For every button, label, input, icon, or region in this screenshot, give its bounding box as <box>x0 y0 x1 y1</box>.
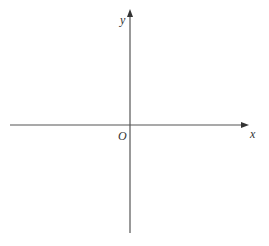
coordinate-plane: y O x <box>0 0 269 246</box>
y-axis-label: y <box>120 14 125 26</box>
y-axis-arrow-icon <box>127 9 133 17</box>
axes-drawing <box>0 0 269 246</box>
x-axis-arrow-icon <box>241 122 249 128</box>
x-axis-label: x <box>250 128 255 140</box>
origin-label: O <box>118 130 127 142</box>
